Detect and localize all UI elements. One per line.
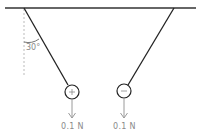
- left-force-label: 0.1 N: [61, 122, 84, 131]
- right-string: [128, 8, 174, 85]
- right-force-arrow-icon: [121, 98, 128, 118]
- left-force-arrow-icon: [69, 99, 76, 118]
- right-force-label: 0.1 N: [113, 122, 136, 131]
- diagram-canvas: [0, 0, 201, 138]
- angle-label: 30°: [26, 43, 40, 52]
